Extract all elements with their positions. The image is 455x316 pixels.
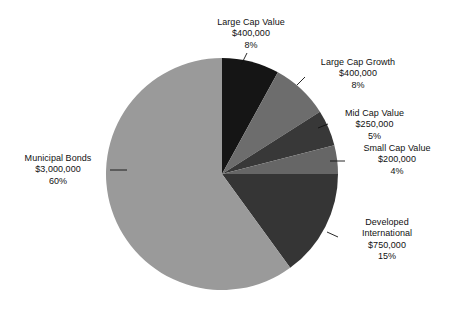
label-municipal-bonds: Municipal Bonds $3,000,000 60%	[8, 153, 108, 187]
label-small-cap-value: Small Cap Value $200,000 4%	[347, 143, 447, 177]
label-large-cap-growth-name: Large Cap Growth	[303, 57, 413, 68]
label-developed-international-amount: $750,000	[341, 240, 433, 251]
label-large-cap-growth-percent: 8%	[303, 80, 413, 91]
label-large-cap-growth-amount: $400,000	[303, 68, 413, 79]
label-large-cap-value-amount: $400,000	[186, 28, 316, 39]
label-municipal-bonds-name: Municipal Bonds	[8, 153, 108, 164]
label-mid-cap-value-percent: 5%	[327, 131, 422, 142]
label-large-cap-value-percent: 8%	[186, 40, 316, 51]
label-mid-cap-value-name: Mid Cap Value	[327, 108, 422, 119]
label-small-cap-value-amount: $200,000	[347, 154, 447, 165]
label-large-cap-value: Large Cap Value $400,000 8%	[186, 17, 316, 51]
label-small-cap-value-name: Small Cap Value	[347, 143, 447, 154]
pie-chart: Large Cap Value $400,000 8% Large Cap Gr…	[0, 0, 455, 316]
label-developed-international: Developed International $750,000 15%	[341, 217, 433, 263]
label-large-cap-value-name: Large Cap Value	[186, 17, 316, 28]
label-small-cap-value-percent: 4%	[347, 166, 447, 177]
label-developed-international-name-line2: International	[341, 228, 433, 239]
label-large-cap-growth: Large Cap Growth $400,000 8%	[303, 57, 413, 91]
pie-slices	[106, 58, 338, 290]
label-municipal-bonds-percent: 60%	[8, 176, 108, 187]
label-mid-cap-value-amount: $250,000	[327, 119, 422, 130]
label-mid-cap-value: Mid Cap Value $250,000 5%	[327, 108, 422, 142]
label-developed-international-name-line1: Developed	[341, 217, 433, 228]
label-municipal-bonds-amount: $3,000,000	[8, 164, 108, 175]
leader-line-developed-international	[327, 232, 338, 237]
label-developed-international-percent: 15%	[341, 251, 433, 262]
